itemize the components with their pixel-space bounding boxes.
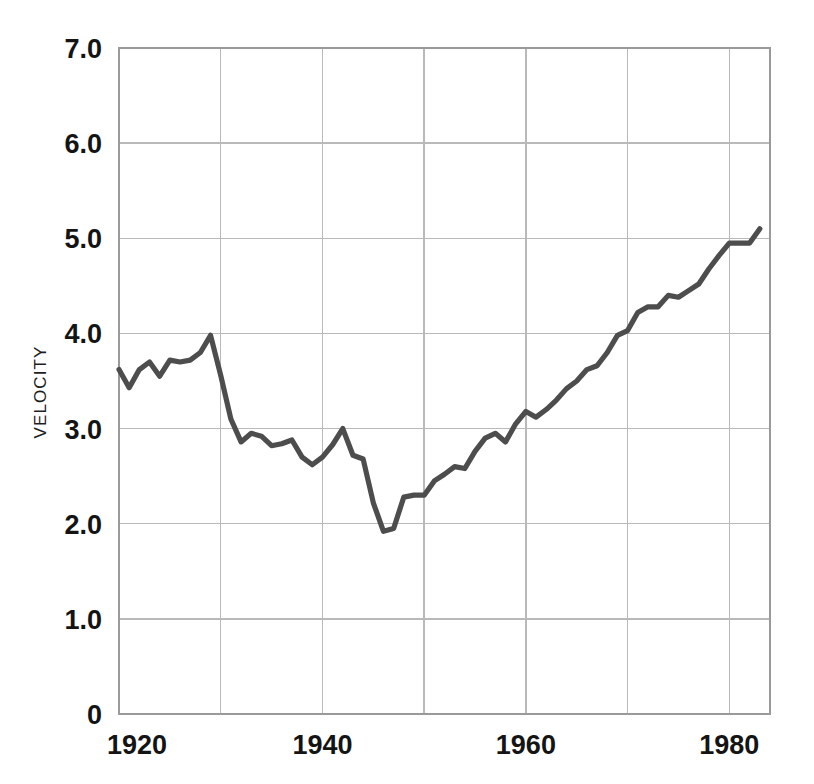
x-tick-label: 1920 bbox=[107, 730, 167, 760]
velocity-data-line bbox=[119, 229, 760, 532]
x-axis-tick-labels: 1920194019601980 bbox=[107, 730, 759, 760]
y-tick-label: 2.0 bbox=[64, 510, 102, 540]
y-axis-title: VELOCITY bbox=[31, 346, 50, 439]
y-tick-label: 0 bbox=[87, 700, 102, 730]
y-tick-label: 6.0 bbox=[64, 129, 102, 159]
x-tick-label: 1980 bbox=[699, 730, 759, 760]
velocity-line-chart: 01.02.03.04.05.06.07.0 1920194019601980 … bbox=[0, 0, 814, 784]
y-tick-label: 7.0 bbox=[64, 34, 102, 64]
y-tick-label: 1.0 bbox=[64, 605, 102, 635]
x-tick-label: 1960 bbox=[496, 730, 556, 760]
vertical-gridlines bbox=[221, 48, 730, 714]
chart-canvas: 01.02.03.04.05.06.07.0 1920194019601980 … bbox=[0, 0, 814, 784]
y-tick-label: 4.0 bbox=[64, 319, 102, 349]
horizontal-gridlines bbox=[119, 48, 770, 619]
x-tick-label: 1940 bbox=[292, 730, 352, 760]
plot-frame bbox=[119, 48, 770, 714]
y-axis-tick-labels: 01.02.03.04.05.06.07.0 bbox=[64, 34, 102, 730]
y-tick-label: 5.0 bbox=[64, 224, 102, 254]
y-tick-label: 3.0 bbox=[64, 415, 102, 445]
